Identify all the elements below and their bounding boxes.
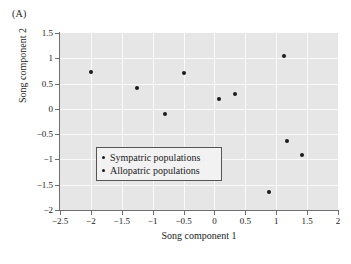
x-axis-tick-label: 1.5 [301,216,312,226]
gridline-vertical [91,33,92,210]
gridline-horizontal [60,185,338,186]
data-point [267,190,271,194]
x-axis-tick [307,211,308,215]
y-axis-line [59,32,60,211]
x-axis-tick-label: 1 [274,216,279,226]
x-axis-tick [214,211,215,215]
y-axis-tick-label: 1 [49,53,54,63]
legend-label-sympatric: Sympatric populations [110,152,200,163]
gridline-vertical [184,33,185,210]
data-point [285,139,289,143]
x-axis-tick-label: 2 [336,216,341,226]
x-axis-tick-label: −1.5 [114,216,130,226]
x-axis-tick-label: −0.5 [175,216,191,226]
y-axis-tick [55,159,59,160]
y-axis-tick-label: 1.5 [42,28,53,38]
y-axis-tick [55,210,59,211]
legend-label-allopatric: Allopatric populations [110,165,200,176]
legend-marker-icon [102,169,105,172]
x-axis-tick-label: −2.5 [52,216,68,226]
x-axis-tick [184,211,185,215]
gridline-vertical [122,33,123,210]
data-point [233,92,237,96]
gridline-vertical [276,33,277,210]
y-axis-tick [55,33,59,34]
gridline-horizontal [60,84,338,85]
y-axis-title: Song component 2 [17,0,28,136]
y-axis-tick-label: −1 [43,154,53,164]
x-axis-tick [91,211,92,215]
y-axis-tick [55,134,59,135]
legend-marker-icon [102,156,105,159]
y-axis-tick [55,84,59,85]
y-axis-tick-label: 0 [49,104,54,114]
data-point [89,70,93,74]
legend-item-allopatric: Allopatric populations [102,164,216,177]
y-axis-tick-label: −0.5 [37,129,53,139]
plot-area [60,33,338,210]
gridline-horizontal [60,109,338,110]
data-point [300,153,304,157]
gridline-horizontal [60,58,338,59]
y-axis-tick [55,109,59,110]
x-axis-tick [153,211,154,215]
y-axis-tick [55,58,59,59]
data-point [217,97,221,101]
x-axis-tick-label: 0.5 [240,216,251,226]
gridline-vertical [307,33,308,210]
scatter-plot-figure: (A) Song component 1 Song component 2 Sy… [0,0,351,264]
data-point [182,71,186,75]
x-axis-tick-label: −2 [86,216,96,226]
gridline-vertical [245,33,246,210]
x-axis-title: Song component 1 [60,230,338,241]
legend: Sympatric populations Allopatric populat… [96,147,222,181]
legend-item-sympatric: Sympatric populations [102,151,216,164]
gridline-vertical [153,33,154,210]
gridline-horizontal [60,134,338,135]
x-axis-tick [60,211,61,215]
x-axis-line [59,210,339,211]
x-axis-tick [122,211,123,215]
y-axis-tick-label: −1.5 [37,180,53,190]
gridline-vertical [214,33,215,210]
x-axis-tick-label: −1 [148,216,158,226]
x-axis-tick [245,211,246,215]
x-axis-tick-label: 0 [212,216,217,226]
data-point [135,86,139,90]
y-axis-tick-label: −2 [43,205,53,215]
y-axis-tick-label: 0.5 [42,79,53,89]
y-axis-tick [55,185,59,186]
data-point [163,112,167,116]
x-axis-tick [338,211,339,215]
x-axis-tick [276,211,277,215]
